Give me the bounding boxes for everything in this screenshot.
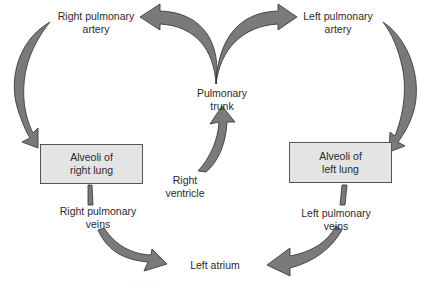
arrow-trunk-to-left-pulmonary-artery	[216, 4, 297, 84]
label-line: artery	[46, 23, 146, 36]
label-right-ventricle: Right ventricle	[160, 174, 210, 200]
box-alveoli-left-lung: Alveoli of left lung	[289, 142, 392, 183]
label-line: veins	[48, 218, 148, 231]
arrow-right-veins-to-left-atrium	[98, 228, 167, 271]
arrow-right-lung-to-right-veins	[88, 185, 93, 205]
arrow-left-lung-to-left-veins	[340, 185, 347, 205]
label-line: ventricle	[160, 187, 210, 200]
arrow-right-ventricle-to-trunk	[198, 106, 235, 172]
label-right-pulmonary-veins: Right pulmonary veins	[48, 205, 148, 231]
label-line: Left pulmonary	[286, 207, 386, 220]
label-line: veins	[286, 220, 386, 233]
arrow-trunk-to-right-pulmonary-artery	[140, 4, 217, 84]
label-line: Left pulmonary	[288, 10, 388, 23]
label-line: Right pulmonary	[46, 10, 146, 23]
label-line: Alveoli of	[70, 151, 113, 164]
label-line: Pulmonary	[192, 87, 252, 100]
label-pulmonary-trunk: Pulmonary trunk	[192, 87, 252, 113]
label-line: trunk	[192, 100, 252, 113]
figure-caption: · · · · · · · ·	[130, 283, 330, 288]
label-right-pulmonary-artery: Right pulmonary artery	[46, 10, 146, 36]
label-line: artery	[288, 23, 388, 36]
label-line: right lung	[70, 164, 113, 177]
label-line: left lung	[319, 163, 362, 176]
arrow-left-veins-to-left-atrium	[267, 226, 342, 276]
label-left-pulmonary-artery: Left pulmonary artery	[288, 10, 388, 36]
label-left-atrium: Left atrium	[180, 259, 250, 272]
box-alveoli-right-lung: Alveoli of right lung	[40, 144, 143, 184]
label-left-pulmonary-veins: Left pulmonary veins	[286, 207, 386, 233]
arrow-right-artery-to-right-lung	[14, 22, 50, 148]
arrow-left-artery-to-left-lung	[383, 22, 416, 152]
pulmonary-circulation-diagram: Right pulmonary artery Left pulmonary ar…	[0, 0, 433, 290]
label-line: Alveoli of	[319, 150, 362, 163]
label-line: Right	[160, 174, 210, 187]
label-line: Left atrium	[180, 259, 250, 272]
label-line: Right pulmonary	[48, 205, 148, 218]
